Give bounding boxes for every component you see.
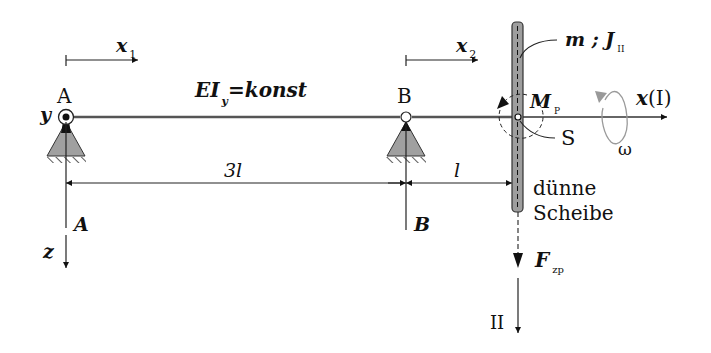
moment-label: MP bbox=[530, 92, 560, 111]
disc-description-line2: Scheibe bbox=[533, 203, 614, 223]
centrifugal-force-arrowhead bbox=[513, 253, 523, 268]
support-a bbox=[46, 110, 86, 229]
mass-leader-line bbox=[520, 40, 557, 58]
x2-coordinate-arrow bbox=[406, 55, 478, 66]
support-b-label: B bbox=[397, 86, 412, 106]
x2-label: x2 bbox=[456, 36, 476, 55]
beam-diagram bbox=[0, 0, 711, 353]
omega-arrowhead bbox=[595, 91, 607, 103]
y-axis-label: y bbox=[40, 105, 51, 124]
omega-label: ω bbox=[618, 141, 632, 158]
axis-ii-label: II bbox=[490, 314, 504, 332]
x1-label: x1 bbox=[116, 36, 136, 55]
stiffness-label: EIy=konst bbox=[195, 80, 307, 100]
x-axis-label: x(I) bbox=[636, 88, 671, 108]
x1-coordinate-arrow bbox=[66, 55, 138, 66]
z-axis-label: z bbox=[43, 242, 54, 261]
s-leader-line bbox=[520, 121, 555, 138]
support-a-label: A bbox=[57, 86, 71, 106]
span-b-disc-label: l bbox=[454, 161, 460, 180]
span-ab-label: 3l bbox=[224, 161, 242, 180]
center-of-mass-s bbox=[515, 114, 521, 120]
reaction-a-label: A bbox=[74, 215, 89, 234]
disc-description-line1: dünne bbox=[533, 178, 596, 198]
reaction-b-label: B bbox=[414, 215, 430, 234]
center-s-label: S bbox=[561, 128, 575, 149]
mass-inertia-label: m ; JII bbox=[565, 30, 624, 49]
force-fzp-label: Fzp bbox=[535, 250, 564, 270]
